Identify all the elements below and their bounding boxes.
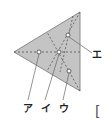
label-u: ウ (59, 104, 69, 114)
point-a-marker (37, 50, 41, 54)
label-a: ア (23, 104, 33, 114)
point-i-marker (57, 50, 61, 54)
answer-bracket: [ (95, 104, 100, 118)
point-u-marker (67, 69, 71, 73)
label-i: イ (41, 104, 51, 114)
triangle-shape (14, 12, 80, 91)
triangle-figure (0, 0, 112, 120)
point-e-marker (66, 33, 70, 37)
label-e: エ (92, 50, 102, 60)
